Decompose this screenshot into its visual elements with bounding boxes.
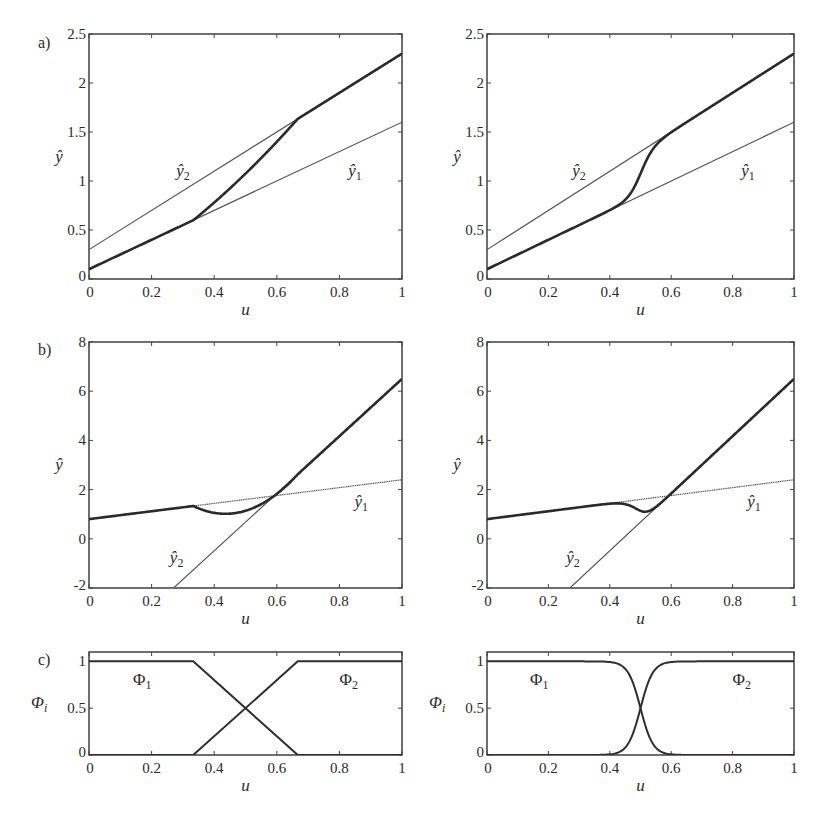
y-tick-label: 1: [477, 653, 485, 669]
x-tick-label: 0.2: [539, 284, 558, 300]
curve-label: ŷ2: [570, 161, 586, 183]
plot-c-left: 00.20.40.60.8100.51uΦiΦ1Φ2: [31, 652, 406, 795]
x-tick-label: 1: [398, 284, 406, 300]
curve-label: Φ2: [340, 670, 358, 692]
plot-b-left: 00.20.40.60.81-202468uŷŷ2ŷ1: [53, 334, 406, 665]
x-tick-label: 0.8: [723, 760, 742, 776]
x-tick-label: 0: [484, 284, 492, 300]
x-tick-label: 0: [484, 593, 492, 609]
x-tick-label: 0.8: [723, 593, 742, 609]
y-tick-label: 4: [477, 432, 485, 448]
x-tick-label: 1: [790, 284, 798, 300]
curve-label: Φ1: [133, 670, 151, 692]
y-tick-label: 2.5: [465, 26, 484, 42]
x-tick-label: 0.8: [330, 284, 349, 300]
x-tick-label: 0.2: [142, 593, 161, 609]
curve-label: Φ2: [733, 670, 751, 692]
y-tick-label: 2: [477, 75, 485, 91]
y-axis-label: ŷ: [451, 147, 461, 166]
x-axis-label: u: [636, 776, 645, 795]
curve-label: ŷ1: [739, 161, 755, 183]
plot-frame: [89, 34, 402, 279]
y-axis-label: Φi: [429, 693, 445, 715]
x-tick-label: 1: [790, 760, 798, 776]
x-tick-label: 0.6: [267, 284, 286, 300]
y-tick-label: 0: [79, 744, 87, 760]
x-tick-label: 0.8: [330, 760, 349, 776]
y-tick-label: 0: [477, 531, 485, 547]
y-tick-label: 2: [79, 482, 87, 498]
y-tick-label: 6: [79, 383, 87, 399]
y-tick-label: 0.5: [67, 700, 86, 716]
x-tick-label: 1: [398, 593, 406, 609]
x-tick-label: 0.4: [205, 760, 224, 776]
y-tick-label: 1.5: [465, 124, 484, 140]
y-axis-label: Φi: [31, 693, 47, 715]
x-tick-label: 1: [790, 593, 798, 609]
curve-label: ŷ2: [168, 548, 184, 570]
y-axis-label: ŷ: [53, 455, 63, 474]
plot-b-right: 00.20.40.60.81-202468uŷŷ2ŷ1: [451, 334, 798, 665]
y-tick-label: 2: [477, 482, 485, 498]
y-axis-label: ŷ: [53, 147, 63, 166]
x-tick-label: 0.4: [205, 284, 224, 300]
x-tick-label: 0.8: [723, 284, 742, 300]
y-axis-label: ŷ: [451, 455, 461, 474]
x-tick-label: 0.2: [539, 593, 558, 609]
panel-label-b: b): [38, 341, 51, 359]
y-tick-label: 0.5: [465, 700, 484, 716]
x-tick-label: 0.6: [267, 593, 286, 609]
y-tick-label: 1: [477, 173, 485, 189]
x-tick-label: 0.6: [267, 760, 286, 776]
plot-frame: [487, 652, 794, 755]
plot-a-left: 00.20.40.60.8100.511.522.5uŷŷ2ŷ1: [53, 26, 406, 319]
y-tick-label: -2: [74, 577, 87, 593]
y-tick-label: -2: [472, 577, 485, 593]
plot-c-right: 00.20.40.60.8100.51uΦiΦ1Φ2: [429, 652, 798, 795]
x-tick-label: 0.2: [142, 284, 161, 300]
curve-label: ŷ2: [564, 548, 580, 570]
x-axis-label: u: [241, 609, 250, 628]
x-tick-label: 0.4: [205, 593, 224, 609]
panel-label-c: c): [38, 651, 50, 669]
y-tick-label: 4: [79, 432, 87, 448]
y-tick-label: 2: [79, 75, 87, 91]
plot-frame: [89, 652, 402, 755]
y-tick-label: 0: [477, 744, 485, 760]
x-tick-label: 0: [484, 760, 492, 776]
y-tick-label: 8: [79, 334, 87, 350]
curve-label: Φ1: [530, 670, 548, 692]
x-axis-label: u: [636, 609, 645, 628]
y-tick-label: 2.5: [67, 26, 86, 42]
plot-frame: [89, 342, 402, 588]
plot-frame: [487, 342, 794, 588]
curve-label: ŷ1: [346, 161, 362, 183]
x-tick-label: 0: [86, 593, 94, 609]
y-tick-label: 8: [477, 334, 485, 350]
x-tick-label: 1: [398, 760, 406, 776]
x-axis-label: u: [241, 300, 250, 319]
x-tick-label: 0.8: [330, 593, 349, 609]
figure: a) b) c) 00.20.40.60.8100.511.522.5uŷŷ2ŷ…: [0, 0, 828, 813]
y-tick-label: 1: [79, 653, 87, 669]
y-tick-label: 0: [477, 268, 485, 284]
x-tick-label: 0.6: [662, 284, 681, 300]
curve-label: ŷ1: [745, 492, 761, 514]
x-tick-label: 0.2: [539, 760, 558, 776]
y-tick-label: 0.5: [67, 222, 86, 238]
x-tick-label: 0: [86, 284, 94, 300]
x-tick-label: 0.6: [662, 593, 681, 609]
curve-label: ŷ1: [353, 492, 369, 514]
x-tick-label: 0: [86, 760, 94, 776]
x-tick-label: 0.6: [662, 760, 681, 776]
x-tick-label: 0.4: [600, 760, 619, 776]
x-axis-label: u: [241, 776, 250, 795]
x-axis-label: u: [636, 300, 645, 319]
y-tick-label: 6: [477, 383, 485, 399]
x-tick-label: 0.4: [600, 593, 619, 609]
y-tick-label: 1: [79, 173, 87, 189]
plot-frame: [487, 34, 794, 279]
y-tick-label: 0.5: [465, 222, 484, 238]
x-tick-label: 0.4: [600, 284, 619, 300]
panel-label-a: a): [38, 34, 50, 52]
